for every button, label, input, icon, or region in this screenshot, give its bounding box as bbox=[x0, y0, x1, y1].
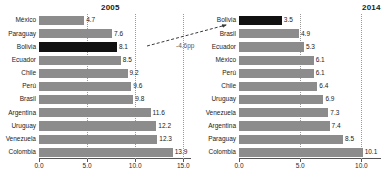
value-label: 4.9 bbox=[301, 31, 310, 38]
axis-tick bbox=[135, 159, 136, 162]
bar-row: Paraguay8.5 bbox=[239, 135, 381, 144]
value-label: 5.3 bbox=[306, 44, 315, 51]
bar bbox=[239, 121, 330, 130]
bar-row: Uruguay12.2 bbox=[39, 121, 191, 130]
bar-row: Chile9.2 bbox=[39, 69, 191, 78]
bar bbox=[39, 29, 112, 38]
bar bbox=[239, 95, 323, 104]
bar bbox=[39, 135, 157, 144]
bar-row: Ecuador5.3 bbox=[239, 42, 381, 51]
category-label: Perú bbox=[22, 83, 36, 90]
category-label: Bolivia bbox=[17, 44, 36, 51]
value-label: 12.2 bbox=[158, 123, 171, 130]
value-label: 7.6 bbox=[114, 31, 123, 38]
bar-row: Uruguay6.9 bbox=[239, 95, 381, 104]
category-label: Venezuela bbox=[206, 110, 236, 117]
category-label: Argentina bbox=[8, 110, 36, 117]
category-label: Venezuela bbox=[6, 136, 36, 143]
category-label: Ecuador bbox=[212, 44, 236, 51]
plot-area-2014: 0.05.010.0 Bolivia3.5Brasil4.9Ecuador5.3… bbox=[239, 14, 381, 159]
bar bbox=[239, 56, 314, 65]
bar-row: Argentina11.6 bbox=[39, 108, 191, 117]
plot-area-2005: 0.05.010.015.0 México4.7Paraguay7.6Boliv… bbox=[39, 14, 191, 159]
category-label: Paraguay bbox=[8, 31, 36, 38]
axis-tick bbox=[87, 159, 88, 162]
bar bbox=[239, 148, 363, 157]
bar-row: Ecuador8.5 bbox=[39, 56, 191, 65]
axis-tick-label: 15.0 bbox=[177, 162, 190, 169]
panel-2014: 2014 0.05.010.0 Bolivia3.5Brasil4.9Ecuad… bbox=[194, 0, 388, 183]
axis-tick-label: 5.0 bbox=[296, 162, 305, 169]
category-label: Ecuador bbox=[12, 57, 36, 64]
bar bbox=[39, 148, 173, 157]
axis-tick-label: 10.0 bbox=[355, 162, 368, 169]
bar bbox=[239, 135, 343, 144]
bar-row: Bolivia3.5 bbox=[239, 16, 381, 25]
value-label: 9.8 bbox=[135, 96, 144, 103]
bar-row: México4.7 bbox=[39, 16, 191, 25]
value-label: 8.1 bbox=[119, 44, 128, 51]
bar-highlighted bbox=[239, 16, 282, 25]
bar-row: Perú6.1 bbox=[239, 69, 381, 78]
panel-title-2014: 2014 bbox=[362, 3, 381, 12]
category-label: México bbox=[15, 17, 36, 24]
axis-tick bbox=[39, 159, 40, 162]
axis-tick-label: 5.0 bbox=[83, 162, 92, 169]
bar bbox=[239, 29, 299, 38]
value-label: 9.2 bbox=[130, 70, 139, 77]
value-label: 6.1 bbox=[316, 70, 325, 77]
value-label: 6.9 bbox=[325, 96, 334, 103]
axis-tick bbox=[300, 159, 301, 162]
bar-row: Perú9.6 bbox=[39, 82, 191, 91]
category-label: Chile bbox=[221, 83, 236, 90]
value-label: 13.9 bbox=[175, 149, 188, 156]
x-axis-labels-2014: 0.05.010.0 bbox=[239, 159, 381, 173]
axis-tick bbox=[361, 159, 362, 162]
bar bbox=[239, 42, 304, 51]
axis-tick-label: 0.0 bbox=[34, 162, 43, 169]
bar bbox=[39, 108, 151, 117]
bar-row: México6.1 bbox=[239, 56, 381, 65]
category-label: Bolivia bbox=[217, 17, 236, 24]
bar bbox=[39, 121, 156, 130]
value-label: 8.5 bbox=[345, 136, 354, 143]
category-label: México bbox=[215, 57, 236, 64]
category-label: Chile bbox=[21, 70, 36, 77]
value-label: 7.3 bbox=[330, 110, 339, 117]
panel-title-2005: 2005 bbox=[101, 3, 120, 12]
bar bbox=[39, 56, 121, 65]
bar-row: Venezuela7.3 bbox=[239, 108, 381, 117]
value-label: 9.6 bbox=[133, 83, 142, 90]
bar bbox=[39, 82, 131, 91]
bar-row: Argentina7.4 bbox=[239, 121, 381, 130]
bar bbox=[39, 16, 84, 25]
bar-row: Chile6.4 bbox=[239, 82, 381, 91]
bar-row: Brasil4.9 bbox=[239, 29, 381, 38]
axis-tick-label: 10.0 bbox=[129, 162, 142, 169]
x-axis-labels-2005: 0.05.010.015.0 bbox=[39, 159, 191, 173]
value-label: 8.5 bbox=[123, 57, 132, 64]
value-label: 10.1 bbox=[365, 149, 378, 156]
category-label: Colombia bbox=[209, 149, 236, 156]
bar bbox=[239, 69, 314, 78]
category-label: Uruguay bbox=[211, 96, 236, 103]
annotation-label-change: -4.6pp bbox=[176, 42, 194, 49]
category-label: Uruguay bbox=[11, 123, 36, 130]
value-label: 6.1 bbox=[316, 57, 325, 64]
category-label: Perú bbox=[222, 70, 236, 77]
panel-2005: 2005 0.05.010.015.0 México4.7Paraguay7.6… bbox=[0, 0, 194, 183]
value-label: 3.5 bbox=[284, 17, 293, 24]
bar bbox=[39, 95, 133, 104]
bar-row: Colombia10.1 bbox=[239, 148, 381, 157]
bar-highlighted bbox=[39, 42, 117, 51]
axis-tick bbox=[183, 159, 184, 162]
value-label: 7.4 bbox=[332, 123, 341, 130]
category-label: Brasil bbox=[220, 31, 236, 38]
bar-row: Brasil9.8 bbox=[39, 95, 191, 104]
bar-row: Paraguay7.6 bbox=[39, 29, 191, 38]
bar-row: Bolivia8.1 bbox=[39, 42, 191, 51]
category-label: Brasil bbox=[20, 96, 36, 103]
bar-row: Venezuela12.3 bbox=[39, 135, 191, 144]
value-label: 12.3 bbox=[159, 136, 172, 143]
value-label: 11.6 bbox=[153, 110, 165, 117]
